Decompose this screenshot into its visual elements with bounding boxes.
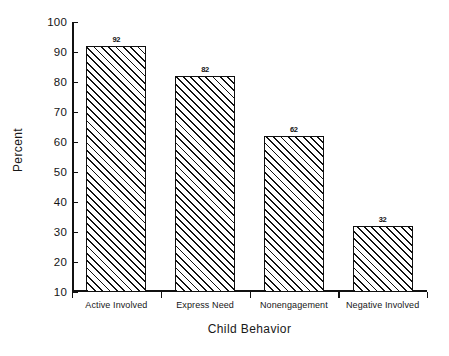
x-tick-mark <box>250 292 251 298</box>
x-tick-labels: Active InvolvedExpress NeedNonengagement… <box>72 300 427 316</box>
y-axis-title-text: Percent <box>11 128 25 172</box>
y-tick-label: 10 <box>54 286 67 298</box>
y-tick-label: 90 <box>54 46 67 58</box>
bar-value-label: 62 <box>264 125 324 134</box>
y-tick-label: 50 <box>54 166 67 178</box>
bar-group: 92 <box>86 22 146 292</box>
y-tick-label: 60 <box>54 136 67 148</box>
y-tick-label: 20 <box>54 256 67 268</box>
bar-chart-figure: Percent 102030405060708090100 92826232 A… <box>0 0 449 356</box>
x-axis-title: Child Behavior <box>72 322 427 336</box>
bar <box>264 136 324 292</box>
bar-value-label: 92 <box>86 35 146 44</box>
x-tick-mark <box>338 292 339 298</box>
y-tick-label: 70 <box>54 106 67 118</box>
y-tick-label: 100 <box>47 16 67 28</box>
bar-group: 62 <box>264 22 324 292</box>
bar-value-label: 82 <box>175 65 235 74</box>
bar-value-label: 32 <box>353 215 413 224</box>
bar <box>175 76 235 292</box>
x-category-label: Negative Involved <box>328 300 438 310</box>
y-tick-label: 30 <box>54 226 67 238</box>
bar <box>353 226 413 292</box>
y-axis-title: Percent <box>4 0 32 300</box>
bars-layer: 92826232 <box>72 22 427 292</box>
y-tick-label: 40 <box>54 196 67 208</box>
x-tick-mark <box>161 292 162 298</box>
x-tick-mark <box>72 292 73 298</box>
bar-group: 32 <box>353 22 413 292</box>
bar-group: 82 <box>175 22 235 292</box>
plot-area: 102030405060708090100 92826232 <box>72 22 427 292</box>
y-tick-label: 80 <box>54 76 67 88</box>
x-tick-mark <box>427 292 428 298</box>
bar <box>86 46 146 292</box>
